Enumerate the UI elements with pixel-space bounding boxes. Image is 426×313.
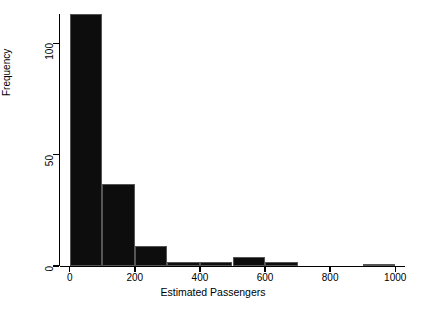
histogram-bar [102, 184, 135, 266]
y-axis-title: Frequency [2, 49, 12, 96]
y-axis-line [59, 14, 60, 266]
x-axis-title: Estimated Passengers [0, 286, 426, 298]
bars-container [60, 10, 405, 266]
x-tick-label: 800 [300, 272, 360, 283]
x-tick-label: 200 [105, 272, 165, 283]
histogram-bar [70, 14, 103, 266]
y-tick-label: 0 [45, 266, 55, 272]
y-tick-label: 100 [45, 43, 55, 60]
histogram-figure: 050100 02004006008001000 Frequency Estim… [0, 0, 426, 313]
plot-area [60, 10, 405, 266]
y-tick-label: 50 [45, 155, 55, 166]
x-tick-label: 600 [235, 272, 295, 283]
x-tick-label: 1000 [365, 272, 425, 283]
x-tick-label: 400 [170, 272, 230, 283]
x-tick-label: 0 [40, 272, 100, 283]
x-axis-line [60, 266, 405, 267]
histogram-bar [135, 246, 168, 266]
